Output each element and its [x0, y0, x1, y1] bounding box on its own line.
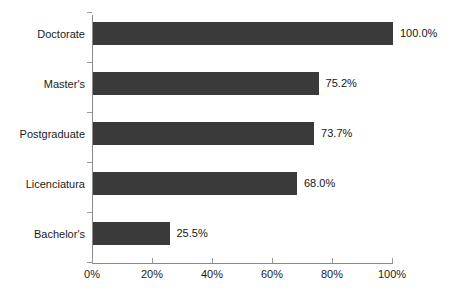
- y-axis-tick: [87, 162, 92, 163]
- bar-category-label: Postgraduate: [20, 122, 85, 146]
- bar-row: Postgraduate73.7%: [0, 122, 457, 146]
- bar: [93, 72, 319, 95]
- bar-category-label: Bachelor's: [34, 222, 85, 246]
- bar-category-label: Doctorate: [37, 22, 85, 46]
- x-axis-tick: [392, 258, 393, 263]
- bar-value-label: 25.5%: [177, 222, 208, 245]
- x-axis-line: [92, 263, 393, 264]
- y-axis-tick: [87, 112, 92, 113]
- y-axis-tick: [87, 62, 92, 63]
- y-axis-tick: [87, 12, 92, 13]
- x-axis-tick-label: 40%: [190, 268, 234, 280]
- bar-row: Bachelor's25.5%: [0, 222, 457, 246]
- bar: [93, 222, 170, 245]
- bar: [93, 172, 297, 195]
- bar-chart: Doctorate100.0%Master's75.2%Postgraduate…: [0, 0, 457, 304]
- x-axis-tick: [92, 258, 93, 263]
- scan-artifact-bottom: [60, 293, 450, 303]
- x-axis-tick-label: 100%: [370, 268, 414, 280]
- x-axis-tick: [272, 258, 273, 263]
- scan-artifact-top: [18, 0, 448, 6]
- bar-row: Doctorate100.0%: [0, 22, 457, 46]
- y-axis-tick: [87, 212, 92, 213]
- x-axis-tick-label: 80%: [310, 268, 354, 280]
- x-axis-tick-label: 0%: [70, 268, 114, 280]
- bar-row: Master's75.2%: [0, 72, 457, 96]
- bar-category-label: Master's: [44, 72, 85, 96]
- bar-category-label: Licenciatura: [26, 172, 85, 196]
- bar: [93, 22, 393, 45]
- bar-value-label: 100.0%: [400, 22, 437, 45]
- bar-value-label: 73.7%: [321, 122, 352, 145]
- x-axis-tick: [212, 258, 213, 263]
- bar-value-label: 68.0%: [304, 172, 335, 195]
- bar-row: Licenciatura68.0%: [0, 172, 457, 196]
- x-axis-tick-label: 60%: [250, 268, 294, 280]
- bar-value-label: 75.2%: [326, 72, 357, 95]
- bar: [93, 122, 314, 145]
- x-axis-tick: [332, 258, 333, 263]
- x-axis-tick: [152, 258, 153, 263]
- x-axis-tick-label: 20%: [130, 268, 174, 280]
